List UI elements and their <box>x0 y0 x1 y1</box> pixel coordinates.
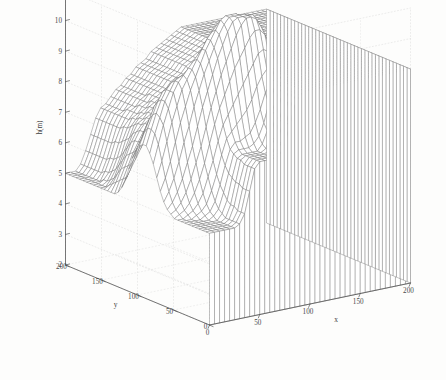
skirt-front <box>255 162 260 316</box>
y-tick-label: 100 <box>128 293 139 301</box>
x-tick-label: 0 <box>206 329 210 337</box>
skirt-right <box>386 59 390 274</box>
skirt-front <box>210 232 215 325</box>
skirt-right <box>319 31 323 246</box>
skirt-right <box>295 21 299 236</box>
skirt-right <box>351 44 355 259</box>
skirt-front <box>240 214 245 319</box>
skirt-front <box>220 230 225 323</box>
skirt-right <box>382 57 386 272</box>
skirt-right <box>291 19 295 234</box>
plot-canvas: 111098765432200150100500050100150200h(m)… <box>0 0 446 380</box>
z-tick <box>66 20 70 21</box>
y-tick <box>210 325 214 327</box>
skirt-right <box>337 38 341 253</box>
skirt-right <box>267 9 271 224</box>
skirt-right <box>372 53 376 268</box>
z-tick-label: 8 <box>58 78 62 86</box>
x-tick-label: 200 <box>403 287 414 295</box>
z-tick-label: 10 <box>55 17 63 25</box>
skirt-right <box>347 43 351 258</box>
z-tick-label: 4 <box>58 200 62 208</box>
skirt-right <box>277 14 281 229</box>
z-tick <box>66 111 70 112</box>
skirt-right <box>354 46 358 261</box>
z-tick <box>66 142 70 143</box>
skirt-right <box>403 66 407 281</box>
y-axis-title: y <box>114 300 118 309</box>
skirt-right <box>400 65 404 280</box>
mesh-plot-figure: 111098765432200150100500050100150200h(m)… <box>0 0 446 380</box>
skirt-right <box>396 63 400 278</box>
skirt-right <box>379 56 383 271</box>
skirt-right <box>302 24 306 239</box>
skirt-front <box>225 229 230 322</box>
y-tick <box>174 310 178 312</box>
skirt-right <box>365 50 369 265</box>
z-tick-label: 7 <box>58 109 62 117</box>
skirt-right <box>323 33 327 248</box>
z-tick <box>66 203 70 204</box>
z-tick-label: 3 <box>58 231 62 239</box>
skirt-right <box>316 30 320 245</box>
skirt-front <box>260 161 265 315</box>
skirt-right <box>288 18 292 233</box>
x-tick <box>208 325 209 328</box>
skirt-front <box>235 224 240 320</box>
z-tick-label: 5 <box>58 170 62 178</box>
skirt-right <box>309 27 313 242</box>
skirt-right <box>298 22 302 237</box>
skirt-right <box>274 12 278 227</box>
skirt-right <box>361 49 365 264</box>
x-axis-title: x <box>334 315 338 324</box>
z-tick <box>66 50 70 51</box>
z-tick <box>66 233 70 234</box>
surface-mesh <box>66 9 411 325</box>
x-tick-label: 100 <box>303 308 314 316</box>
skirt-right <box>284 16 288 231</box>
y-tick-label: 200 <box>56 263 67 271</box>
z-tick <box>66 81 70 82</box>
y-tick-label: 50 <box>166 308 174 316</box>
skirt-right <box>344 41 348 256</box>
x-tick-label: 50 <box>254 319 262 327</box>
skirt-right <box>305 25 309 240</box>
skirt-right <box>281 15 285 230</box>
x-tick-label: 150 <box>353 298 364 306</box>
skirt-right <box>389 60 393 275</box>
z-tick-label: 6 <box>58 139 62 147</box>
skirt-front <box>245 191 250 317</box>
skirt-right <box>358 47 362 262</box>
skirt-right <box>330 35 334 250</box>
skirt-front <box>230 228 235 321</box>
skirt-right <box>393 62 397 277</box>
y-tick-label: 150 <box>92 278 103 286</box>
skirt-right <box>312 28 316 243</box>
skirt-front <box>215 231 220 324</box>
skirt-right <box>270 11 274 226</box>
skirt-right <box>326 34 330 249</box>
skirt-right <box>333 37 337 252</box>
skirt-front <box>250 169 255 317</box>
skirt-right <box>368 52 372 267</box>
skirt-right <box>407 68 411 283</box>
z-axis-title: h(m) <box>36 120 44 135</box>
skirt-right <box>340 40 344 255</box>
skirt-right <box>375 54 379 269</box>
z-tick-label: 9 <box>58 48 62 56</box>
